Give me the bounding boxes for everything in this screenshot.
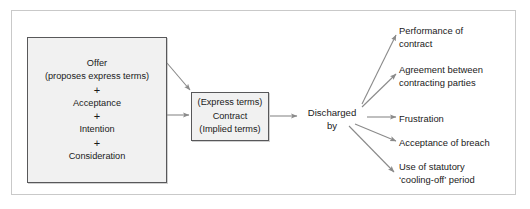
discharged-by-line2: by [299,119,365,132]
formation-line-offer-detail: (proposes express terms) [45,70,149,84]
formation-plus-2: + [94,110,100,123]
outcome-4-line1: Use of statutory [399,161,475,174]
outcome-2-line1: Frustration [399,113,444,126]
outcome-performance-of-contract: Performance of contract [399,25,463,50]
outcome-1-line2: contracting parties [399,77,483,90]
outcome-4-line2: ‘cooling-off’ period [399,174,475,187]
formation-line-acceptance: Acceptance [73,97,121,111]
contract-line-contract: Contract [213,110,248,124]
outcome-0-line2: contract [399,38,463,51]
formation-line-consideration: Consideration [69,150,126,164]
formation-line-intention: Intention [79,123,114,137]
formation-plus-1: + [94,84,100,97]
outcome-1-line1: Agreement between [399,64,483,77]
outcome-acceptance-of-breach: Acceptance of breach [399,137,490,150]
diagram-canvas: Offer (proposes express terms) + Accepta… [0,0,530,209]
formation-plus-3: + [94,137,100,150]
outcome-0-line1: Performance of [399,25,463,38]
outcome-use-of-statutory-cooling-off-period: Use of statutory ‘cooling-off’ period [399,161,475,186]
formation-line-offer: Offer [87,57,107,71]
outcome-frustration: Frustration [399,113,444,126]
contract-box: (Express terms) Contract (Implied terms) [191,92,269,141]
outcome-3-line1: Acceptance of breach [399,137,490,150]
discharged-by-label: Discharged by [299,106,365,132]
outcome-agreement-between-contracting-parties: Agreement between contracting parties [399,64,483,89]
contract-line-express-terms: (Express terms) [198,96,263,110]
contract-formation-box: Offer (proposes express terms) + Accepta… [27,37,167,183]
contract-line-implied-terms: (Implied terms) [199,123,260,137]
discharged-by-line1: Discharged [299,106,365,119]
